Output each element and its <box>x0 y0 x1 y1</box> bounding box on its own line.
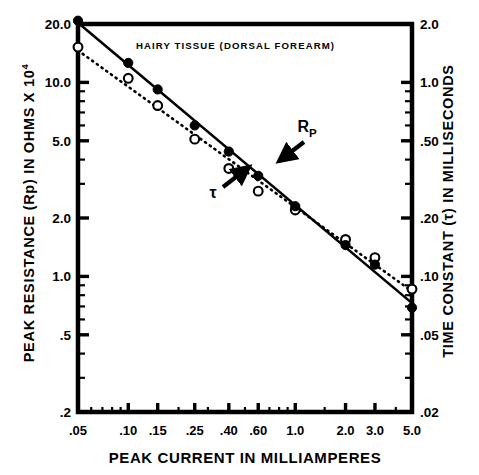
rp-annotation: RP <box>297 118 317 139</box>
x-tick-label: .15 <box>149 423 167 438</box>
x-tick-label: .40 <box>220 423 238 438</box>
y-right-tick-label: .10 <box>420 269 439 284</box>
x-tick-label: 1.0 <box>286 423 304 438</box>
x-tick-label: .25 <box>186 423 204 438</box>
x-tick-label: 2.0 <box>337 423 355 438</box>
data-point-tau <box>153 85 162 94</box>
data-point-tau <box>254 171 263 180</box>
data-series <box>73 16 416 312</box>
y-right-tick-label: 2.0 <box>420 17 439 32</box>
data-point-Rp <box>74 43 83 52</box>
data-point-Rp <box>124 74 133 83</box>
y-left-tick-label: .2 <box>60 405 71 420</box>
data-point-tau <box>370 260 379 269</box>
data-point-tau <box>73 16 82 25</box>
data-point-Rp <box>153 101 162 110</box>
data-point-tau <box>190 121 199 130</box>
x-tick-label: 3.0 <box>366 423 384 438</box>
tau-annotation: τ <box>209 184 216 201</box>
axis-tick-labels: .05.10.15.25.40.601.02.03.05.020.010.05.… <box>45 17 440 438</box>
y-right-tick-label: .05 <box>420 328 439 343</box>
data-point-tau <box>407 303 416 312</box>
data-point-Rp <box>190 135 199 144</box>
data-point-tau <box>224 147 233 156</box>
y-left-tick-label: 10.0 <box>45 75 71 90</box>
x-tick-label: .10 <box>119 423 137 438</box>
y-left-tick-label: 2.0 <box>52 211 71 226</box>
y-left-tick-label: .5 <box>60 328 72 343</box>
data-point-Rp <box>254 187 263 196</box>
y-right-tick-label: .20 <box>420 211 439 226</box>
data-point-tau <box>124 58 133 67</box>
y-right-tick-label: .02 <box>420 405 439 420</box>
annotations: RPτ <box>209 118 317 201</box>
y-right-tick-label: .50 <box>420 134 439 149</box>
y-right-tick-label: 1.0 <box>420 75 439 90</box>
chart-figure: PEAK RESISTANCE (Rp) IN OHMS X 104 TIME … <box>0 0 479 475</box>
y-left-tick-label: 1.0 <box>52 269 71 284</box>
data-point-tau <box>341 240 350 249</box>
x-tick-label: 5.0 <box>403 423 421 438</box>
rp-annotation-arrow <box>279 142 304 161</box>
y-left-tick-label: 5.0 <box>52 134 71 149</box>
chart-canvas: .05.10.15.25.40.601.02.03.05.020.010.05.… <box>0 0 479 475</box>
x-tick-label: .60 <box>249 423 267 438</box>
x-tick-label: .05 <box>69 423 87 438</box>
data-point-Rp <box>408 285 417 294</box>
data-point-Rp <box>224 164 233 173</box>
y-left-tick-label: 20.0 <box>45 17 71 32</box>
data-point-tau <box>291 202 300 211</box>
